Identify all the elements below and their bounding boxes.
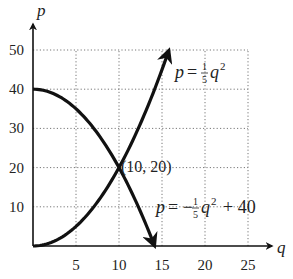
- chart-canvas: 5101520251020304050 p q (10, 20) p=15q2 …: [0, 0, 293, 279]
- y-tick-label: 10: [9, 199, 24, 215]
- eq-variable: q: [210, 62, 219, 82]
- intersection-label: (10, 20): [121, 158, 172, 176]
- x-tick-label: 10: [112, 257, 127, 273]
- curves: [33, 50, 169, 246]
- y-tick-label: 40: [9, 81, 24, 97]
- eq-variable: q: [201, 197, 210, 217]
- x-tick-label: 15: [155, 257, 170, 273]
- x-tick-label: 20: [198, 257, 213, 273]
- y-tick-label: 20: [9, 160, 24, 176]
- eq-lhs: p: [154, 197, 165, 217]
- eq-denominator: 5: [193, 209, 198, 220]
- eq-tail: + 40: [223, 197, 256, 217]
- eq-sign: = −: [168, 197, 193, 217]
- eq-exponent: 2: [220, 60, 226, 72]
- x-tick-label: 5: [72, 257, 80, 273]
- x-tick-label: 25: [241, 257, 256, 273]
- eq-sign: =: [187, 62, 197, 82]
- eq-denominator: 5: [202, 74, 207, 85]
- curve-label-up: p=15q2: [173, 60, 226, 85]
- eq-lhs: p: [173, 62, 184, 82]
- curve-supply: [33, 50, 169, 246]
- eq-numerator: 1: [193, 196, 198, 207]
- eq-numerator: 1: [202, 61, 207, 72]
- y-tick-label: 30: [9, 120, 24, 136]
- y-tick-label: 50: [9, 42, 24, 58]
- y-axis-label: p: [36, 1, 46, 20]
- eq-exponent: 2: [211, 195, 217, 207]
- x-axis-label: q: [277, 238, 286, 257]
- curve-label-down: p= −15q2+ 40: [154, 195, 256, 220]
